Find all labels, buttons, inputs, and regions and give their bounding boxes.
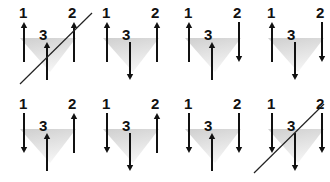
- spin-panel-6: 123: [83, 91, 165, 182]
- site-label-2: 2: [68, 5, 76, 20]
- spin-panel-2: 123: [83, 0, 165, 91]
- spin-panel-7: 123: [165, 91, 247, 182]
- site-label-2: 2: [151, 5, 159, 20]
- spin-panel-4: 123: [248, 0, 330, 91]
- site-label-2: 2: [68, 96, 76, 111]
- spin-panel-5: 123: [0, 91, 82, 182]
- site-label-1: 1: [267, 96, 275, 111]
- site-label-3: 3: [122, 118, 130, 133]
- site-label-2: 2: [233, 5, 241, 20]
- site-label-1: 1: [184, 96, 192, 111]
- site-label-3: 3: [287, 27, 295, 42]
- site-label-3: 3: [122, 27, 130, 42]
- site-label-2: 2: [316, 5, 324, 20]
- site-label-1: 1: [19, 96, 27, 111]
- site-label-2: 2: [233, 96, 241, 111]
- spin-panel-1: 123: [0, 0, 82, 91]
- site-label-1: 1: [19, 5, 27, 20]
- site-label-3: 3: [39, 118, 47, 133]
- site-label-3: 3: [204, 27, 212, 42]
- site-label-1: 1: [184, 5, 192, 20]
- site-label-2: 2: [151, 96, 159, 111]
- site-label-2: 2: [316, 96, 324, 111]
- site-label-1: 1: [102, 96, 110, 111]
- site-label-1: 1: [102, 5, 110, 20]
- site-label-1: 1: [267, 5, 275, 20]
- spin-panel-8: 123: [248, 91, 330, 182]
- site-label-3: 3: [39, 27, 47, 42]
- site-label-3: 3: [287, 118, 295, 133]
- spin-panel-3: 123: [165, 0, 247, 91]
- site-label-3: 3: [204, 118, 212, 133]
